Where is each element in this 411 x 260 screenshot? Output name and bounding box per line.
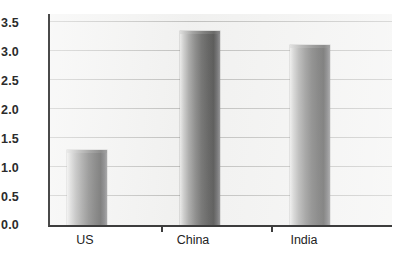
bar-top-cap — [290, 45, 330, 48]
bar-us — [67, 150, 107, 225]
bar-china — [180, 31, 220, 225]
y-axis-tick-label: 2.0 — [0, 104, 19, 117]
y-axis-tick-label: 3.5 — [0, 17, 19, 30]
y-axis-tick-label: 0.0 — [0, 219, 19, 232]
gridline-2-0 — [50, 108, 392, 109]
y-axis-tick-label: 1.5 — [0, 133, 19, 146]
gridline-3-0 — [50, 50, 392, 51]
y-axis-tick-label: 1.0 — [0, 162, 19, 175]
bar-chart-figure: 3.5 3.0 2.5 2.0 1.5 1.0 0.5 0.0 US China… — [0, 0, 411, 260]
bar-india — [290, 45, 330, 225]
y-axis-tick-label: 0.5 — [0, 191, 19, 204]
x-axis-label-india: India — [247, 234, 361, 247]
plot-area — [48, 14, 392, 227]
bar-top-cap — [180, 31, 220, 34]
gridline-3-5 — [50, 21, 392, 22]
y-axis-tick-label: 2.5 — [0, 75, 19, 88]
gridline-1-5 — [50, 137, 392, 138]
x-axis-label-us: US — [28, 234, 142, 247]
x-axis-tick — [271, 225, 273, 232]
gridline-2-5 — [50, 79, 392, 80]
x-axis-label-china: China — [136, 234, 250, 247]
bar-top-cap — [67, 150, 107, 153]
x-axis-tick — [161, 225, 163, 232]
y-axis-tick-label: 3.0 — [0, 46, 19, 59]
